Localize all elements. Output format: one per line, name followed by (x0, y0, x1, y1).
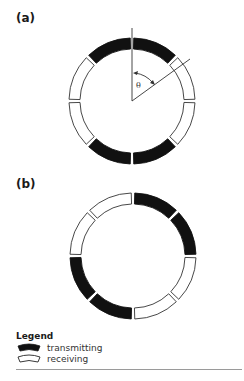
transmitting-segment (134, 193, 176, 218)
transmitting-segment (133, 139, 175, 164)
transmitting-segment (89, 38, 131, 63)
transmitting-segment-icon (16, 343, 42, 352)
legend-label-transmitting: transmitting (47, 343, 102, 353)
receiving-segment (134, 294, 176, 319)
legend-title: Legend (16, 331, 53, 341)
receiving-segment (90, 193, 132, 218)
legend-item-receiving: receiving (16, 353, 88, 364)
legend-item-transmitting: transmitting (16, 342, 102, 353)
arrowhead-icon (133, 71, 138, 75)
receiving-segment (170, 102, 195, 144)
transmitting-segment (133, 38, 175, 63)
transmitting-segment (171, 213, 196, 255)
receiving-segment (70, 213, 95, 255)
receiving-segment (171, 257, 196, 299)
angle-theta-label: θ (136, 81, 141, 90)
transmitting-segment (70, 257, 95, 299)
receiving-segment (69, 58, 94, 100)
legend-label-receiving: receiving (47, 354, 88, 364)
receiving-segment-icon (16, 354, 42, 363)
receiving-segment (69, 102, 94, 144)
transmitting-segment (90, 294, 132, 319)
transmitting-segment (89, 139, 131, 164)
bottom-divider (16, 369, 242, 370)
antenna-ring-diagram-a: θ (0, 0, 244, 175)
antenna-ring-diagram-b (0, 170, 244, 330)
